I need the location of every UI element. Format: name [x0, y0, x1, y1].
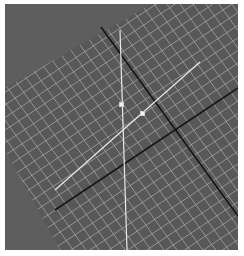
grid-floor — [5, 4, 238, 250]
viewport-canvas[interactable] — [5, 4, 238, 250]
vertex-1[interactable] — [119, 102, 124, 107]
3d-viewport[interactable] — [5, 4, 238, 250]
vertex-2[interactable] — [140, 111, 145, 116]
